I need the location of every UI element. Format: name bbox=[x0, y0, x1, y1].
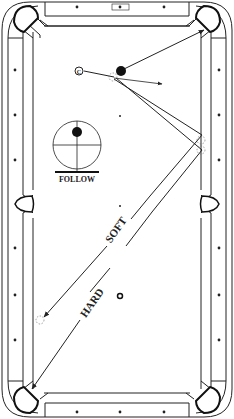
soft-shot-path-upper bbox=[131, 196, 150, 219]
soft-label: SOFT bbox=[103, 214, 130, 245]
diamond bbox=[163, 411, 166, 414]
diamond bbox=[119, 411, 122, 414]
pool-table-diagram: C FOLLOW SOFT HARD bbox=[0, 0, 234, 419]
hard-shot-path-upper bbox=[126, 212, 152, 246]
pocket-bottom-left bbox=[14, 387, 38, 413]
pocket-side-right bbox=[201, 196, 220, 212]
soft-shot-path-lower bbox=[44, 246, 107, 317]
diamond bbox=[14, 247, 17, 250]
pocket-top-left bbox=[14, 6, 38, 32]
diamond bbox=[14, 339, 17, 342]
cushions bbox=[23, 17, 211, 399]
hard-shot-path-final bbox=[32, 320, 80, 389]
diamond bbox=[218, 247, 221, 250]
hard-shot-path-lower bbox=[90, 268, 110, 292]
object-ball bbox=[116, 66, 126, 76]
diamond bbox=[76, 6, 79, 9]
diamond bbox=[218, 339, 221, 342]
diamond bbox=[14, 114, 17, 117]
pocket-bottom-right bbox=[196, 387, 220, 413]
diamond bbox=[76, 411, 79, 414]
pocket-top-right bbox=[196, 6, 220, 32]
cue-tip-icon bbox=[72, 127, 82, 137]
diamond bbox=[218, 69, 221, 72]
reference-ball bbox=[118, 294, 123, 299]
table-frame bbox=[2, 2, 232, 417]
ghost-balls bbox=[36, 73, 205, 324]
diamond bbox=[163, 6, 166, 9]
shot-paths bbox=[32, 30, 204, 389]
cue-ball-approach bbox=[84, 71, 114, 77]
table-spots bbox=[119, 115, 121, 207]
hard-label: HARD bbox=[78, 286, 106, 319]
diamond bbox=[14, 69, 17, 72]
pockets bbox=[14, 6, 220, 413]
diamond bbox=[218, 159, 221, 162]
diamond bbox=[218, 294, 221, 297]
head-spot bbox=[119, 115, 121, 117]
soft-shot-path bbox=[114, 79, 202, 196]
center-spot bbox=[119, 205, 121, 207]
speed-labels: SOFT HARD bbox=[78, 214, 130, 319]
hard-shot-path bbox=[116, 78, 202, 212]
follow-label: FOLLOW bbox=[59, 175, 95, 184]
ghost-ball-final-soft bbox=[36, 316, 44, 324]
pocket-side-left bbox=[15, 196, 34, 212]
diamond bbox=[14, 159, 17, 162]
diamond bbox=[119, 6, 122, 9]
diamond bbox=[218, 114, 221, 117]
diamond bbox=[14, 294, 17, 297]
english-diagram: FOLLOW bbox=[53, 121, 101, 184]
object-ball-path bbox=[124, 30, 204, 69]
diamonds bbox=[14, 4, 221, 413]
cue-ball-label: C bbox=[77, 69, 81, 75]
